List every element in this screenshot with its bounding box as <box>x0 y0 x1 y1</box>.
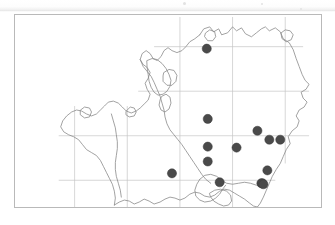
record-dot <box>265 135 274 144</box>
record-dot <box>263 166 272 175</box>
district-boundary-path <box>200 174 262 187</box>
record-dot <box>215 178 224 187</box>
scan-speck <box>300 8 302 10</box>
district-boundary-path <box>281 30 293 42</box>
scan-noise-band <box>0 0 335 12</box>
district-boundary-path <box>147 59 171 96</box>
figure-root <box>0 0 335 225</box>
district-boundary-path <box>159 94 171 112</box>
record-dot <box>203 157 212 166</box>
scan-speck <box>183 2 186 5</box>
record-dot <box>167 169 176 178</box>
record-dot <box>203 114 212 123</box>
record-dot <box>276 135 285 144</box>
record-dot <box>232 143 241 152</box>
record-dot <box>203 142 212 151</box>
record-dot <box>202 44 211 53</box>
district-boundary-path <box>210 189 232 206</box>
record-dot <box>259 180 268 189</box>
record-dot <box>253 126 262 135</box>
record-dot-layer <box>167 44 284 189</box>
district-boundary-path <box>81 107 92 118</box>
distribution-map <box>15 15 321 207</box>
scan-speck <box>261 3 263 5</box>
district-boundary-path <box>205 30 216 41</box>
district-boundary-path <box>140 60 211 184</box>
map-plate-frame <box>14 14 322 208</box>
